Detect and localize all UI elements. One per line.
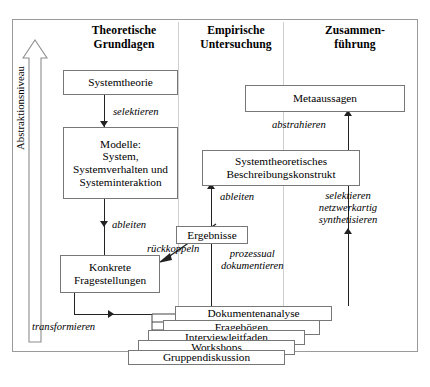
- edge-label-abstrahieren: abstrahieren: [272, 119, 326, 131]
- node-ergebnisse[interactable]: Ergebnisse: [176, 226, 248, 244]
- column-heading-zusammenfuehrung: Zusammen- führung: [300, 24, 410, 51]
- node-label: Gruppendiskussion: [163, 351, 250, 364]
- edge-label-line: selektieren: [305, 190, 391, 202]
- connector-abstrahieren: [348, 112, 349, 150]
- edge-label-line: ableiten: [220, 191, 254, 203]
- arrowhead-up-synthetisieren: [344, 228, 352, 234]
- edge-label-line: synthetisieren: [305, 214, 391, 226]
- edge-label-line: transformieren: [32, 321, 95, 333]
- node-label: Systemtheoretisches: [235, 155, 327, 168]
- edge-label-line: selektieren: [113, 106, 159, 118]
- edge-label-ableiten-left: ableiten: [112, 219, 146, 231]
- column-heading-theoretische-grundlagen: Theoretische Grundlagen: [64, 24, 184, 51]
- edge-label-selektieren-netzwerkartig-synthetisieren: selektieren netzwerkartig synthetisieren: [305, 190, 391, 227]
- edge-label-line: abstrahieren: [272, 119, 326, 131]
- edge-label-line: rückkoppeln: [147, 243, 199, 255]
- node-modelle[interactable]: Modelle: System, Systemverhalten und Sys…: [63, 127, 178, 199]
- node-label: Beschreibungskonstrukt: [226, 168, 335, 181]
- edge-label-transformieren: transformieren: [32, 321, 95, 333]
- node-metaaussagen[interactable]: Metaaussagen: [245, 85, 405, 112]
- column-heading-empirische-untersuchung: Empirische Untersuchung: [182, 24, 290, 51]
- edge-label-ableiten-right: ableiten: [220, 191, 254, 203]
- column-heading-line: führung: [300, 38, 410, 52]
- column-heading-line: Untersuchung: [182, 38, 290, 52]
- node-label: Systemverhalten und: [73, 163, 168, 176]
- edge-label-selektieren: selektieren: [113, 106, 159, 118]
- node-label: System,: [102, 150, 138, 163]
- node-konkrete-fragestellungen[interactable]: Konkrete Fragestellungen: [60, 255, 160, 293]
- column-heading-line: Zusammen-: [300, 24, 410, 38]
- edge-label-line: ableiten: [112, 219, 146, 231]
- node-label: Fragestellungen: [74, 274, 146, 287]
- edge-label-line: dokumentieren: [221, 260, 284, 272]
- node-dokumentenanalyse[interactable]: Dokumentenanalyse: [175, 306, 332, 321]
- connector-transformieren-vertical: [74, 293, 75, 315]
- connector-prozessual-dokumentieren: [211, 240, 212, 306]
- node-label: Konkrete: [89, 261, 131, 274]
- column-heading-line: Theoretische: [64, 24, 184, 38]
- connector-ableiten-right: [211, 186, 212, 226]
- node-label: Metaaussagen: [293, 92, 357, 105]
- edge-label-rueckkoppeln: rückkoppeln: [147, 243, 199, 255]
- node-gruppendiskussion[interactable]: Gruppendiskussion: [128, 350, 285, 365]
- node-label: Systeminteraktion: [79, 176, 161, 189]
- node-systemtheoretisches-beschreibungskonstrukt[interactable]: Systemtheoretisches Beschreibungskonstru…: [202, 150, 360, 186]
- node-label: Modelle:: [100, 138, 141, 151]
- diagram-canvas: Abstraktionsniveau Theoretische Grundlag…: [0, 0, 430, 387]
- abstraktionsniveau-label: Abstraktionsniveau: [14, 66, 26, 150]
- node-label: Systemtheorie: [88, 76, 153, 89]
- arrowhead-right-transformieren: [108, 310, 114, 318]
- node-label: Ergebnisse: [187, 229, 236, 242]
- edge-label-prozessual-dokumentieren: prozessual dokumentieren: [221, 248, 284, 272]
- connector-modelle-fragestellungen: [104, 199, 105, 255]
- column-heading-line: Grundlagen: [64, 38, 184, 52]
- edge-label-line: netzwerkartig: [305, 202, 391, 214]
- edge-label-line: prozessual: [221, 248, 284, 260]
- arrowhead-down-fragestellungen: [100, 221, 108, 227]
- column-heading-line: Empirische: [182, 24, 290, 38]
- node-label: Dokumentenanalyse: [207, 307, 299, 320]
- node-systemtheorie[interactable]: Systemtheorie: [63, 70, 178, 95]
